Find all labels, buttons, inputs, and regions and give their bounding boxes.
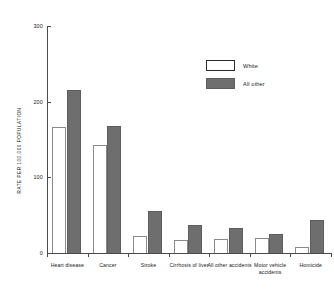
x-tick [250,253,251,257]
bar [255,238,269,253]
plot-area [47,26,331,253]
bar [133,236,147,253]
x-tick [47,253,48,257]
legend-swatch-white [206,60,235,71]
legend-label: All other [243,81,265,87]
bar [107,126,121,253]
chart-legend: WhiteAll other [206,60,265,96]
x-tick [290,253,291,257]
bar [67,90,81,253]
bar [269,234,283,253]
y-tick-label-300: 300 [17,23,43,29]
legend-label: White [243,63,258,69]
x-tick [88,253,89,257]
bar-group [52,26,81,253]
bar-group [133,26,162,253]
bar [174,240,188,253]
bar [295,247,309,253]
bar-group [174,26,203,253]
bar-chart: RATE PER 100,000 POPULATION 3002001000 H… [0,0,334,297]
legend-item: White [206,60,265,71]
bar-group [93,26,122,253]
bar [52,127,66,253]
legend-swatch-other [206,78,235,89]
x-axis-label-homicide: Homicide [286,262,334,269]
bar [148,211,162,253]
legend-item: All other [206,78,265,89]
bar [214,239,228,253]
x-axis-line [47,253,331,254]
bar [310,220,324,253]
bar [93,145,107,253]
x-tick [169,253,170,257]
bar-group [295,26,324,253]
bar [188,225,202,253]
bar [229,228,243,253]
x-tick [331,253,332,257]
y-tick-label-100: 100 [17,174,43,180]
x-tick [128,253,129,257]
y-tick-label-0: 0 [17,250,43,256]
x-tick [209,253,210,257]
y-tick-label-200: 200 [17,99,43,105]
